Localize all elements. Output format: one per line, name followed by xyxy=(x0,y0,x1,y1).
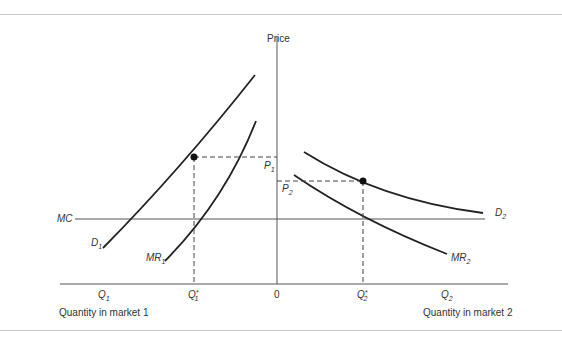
p2-label: P2 xyxy=(282,183,293,196)
equilibrium-point-1 xyxy=(191,154,198,161)
d2-label: D2 xyxy=(495,207,506,220)
market2-axis-label: Quantity in market 2 xyxy=(423,307,513,318)
demand-curve-2 xyxy=(304,152,483,213)
price-axis-label: Price xyxy=(267,33,290,44)
q1star-label: Q*1 xyxy=(188,289,199,302)
mr2-label: MR2 xyxy=(451,252,471,265)
demand-curve-1 xyxy=(103,75,255,248)
market1-axis-label: Quantity in market 1 xyxy=(59,307,149,318)
q2-label: Q2 xyxy=(441,289,453,302)
mr1-label: MR1 xyxy=(146,252,166,265)
p1-label: P1 xyxy=(264,160,275,173)
q2star-label: Q*2 xyxy=(357,289,368,302)
mc-label: MC xyxy=(57,213,73,224)
origin-label: 0 xyxy=(274,289,280,300)
equilibrium-point-2 xyxy=(360,178,367,185)
mr-curve-1 xyxy=(165,121,256,261)
mr-curve-2 xyxy=(294,175,447,254)
price-discrimination-diagram: Price 0 MC D1 MR1 P1 Q1 Q*1 D2 MR2 P2 Q2… xyxy=(0,0,562,342)
q1-label: Q1 xyxy=(98,289,110,302)
d1-label: D1 xyxy=(91,237,102,250)
